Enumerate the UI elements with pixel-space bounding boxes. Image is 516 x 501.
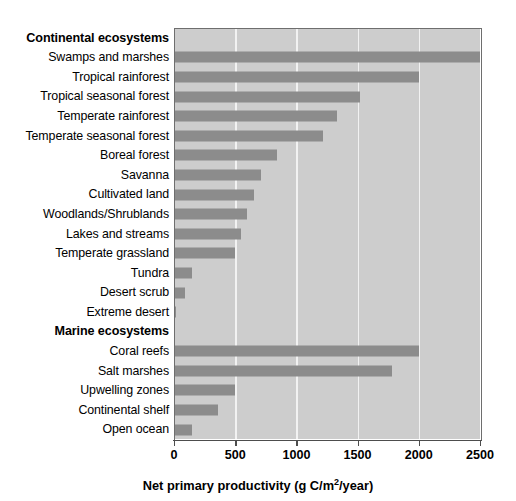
gridline <box>296 224 298 244</box>
chart-root: Continental ecosystemsSwamps and marshes… <box>0 0 516 501</box>
gridline <box>419 126 421 146</box>
bar-track <box>174 28 480 48</box>
category-label: Open ocean <box>0 420 174 440</box>
gridline <box>358 322 360 342</box>
chart-row: Coral reefs <box>0 342 516 362</box>
chart-row: Extreme desert <box>0 302 516 322</box>
bar-track <box>174 361 480 381</box>
bar-track <box>174 106 480 126</box>
category-label: Coral reefs <box>0 342 174 362</box>
gridline <box>419 381 421 401</box>
gridline <box>296 322 298 342</box>
gridline <box>419 185 421 205</box>
gridline <box>296 381 298 401</box>
chart-row: Tundra <box>0 263 516 283</box>
chart-row: Upwelling zones <box>0 381 516 401</box>
chart-row: Open ocean <box>0 420 516 440</box>
gridline <box>419 204 421 224</box>
chart-row: Woodlands/Shrublands <box>0 204 516 224</box>
gridline <box>358 302 360 322</box>
x-axis-tick-label: 500 <box>225 448 246 462</box>
chart-row: Salt marshes <box>0 361 516 381</box>
chart-row: Lakes and streams <box>0 224 516 244</box>
gridline <box>358 106 360 126</box>
gridline <box>235 283 237 303</box>
bar <box>174 71 419 82</box>
gridline <box>419 283 421 303</box>
gridline <box>419 87 421 107</box>
category-label: Continental shelf <box>0 400 174 420</box>
gridline <box>235 322 237 342</box>
chart-row: Temperate grassland <box>0 244 516 264</box>
category-label: Woodlands/Shrublands <box>0 204 174 224</box>
bar-track <box>174 224 480 244</box>
x-axis-tick-label: 2000 <box>405 448 433 462</box>
gridline <box>358 244 360 264</box>
bar-track <box>174 381 480 401</box>
gridline <box>296 263 298 283</box>
gridline <box>358 263 360 283</box>
category-label: Upwelling zones <box>0 381 174 401</box>
bar-track <box>174 87 480 107</box>
bar <box>174 346 419 357</box>
gridline <box>358 165 360 185</box>
x-axis-tick-label: 0 <box>170 448 177 462</box>
gridline <box>296 420 298 440</box>
gridline <box>419 302 421 322</box>
gridline <box>358 204 360 224</box>
gridline <box>419 244 421 264</box>
category-label: Swamps and marshes <box>0 48 174 68</box>
gridline <box>419 322 421 342</box>
gridline <box>296 146 298 166</box>
bar-track <box>174 400 480 420</box>
gridline <box>419 263 421 283</box>
gridline <box>235 420 237 440</box>
bar <box>174 424 192 435</box>
gridline <box>358 224 360 244</box>
bar-track <box>174 420 480 440</box>
gridline <box>296 165 298 185</box>
category-label: Savanna <box>0 165 174 185</box>
bar-track <box>174 302 480 322</box>
x-axis-tick-label: 1500 <box>344 448 372 462</box>
gridline <box>419 224 421 244</box>
bar-track <box>174 322 480 342</box>
gridline <box>419 106 421 126</box>
x-axis-title-suffix: /year) <box>339 478 373 493</box>
bar-track <box>174 185 480 205</box>
gridline <box>419 165 421 185</box>
gridline <box>296 28 298 48</box>
gridline <box>296 400 298 420</box>
bar-track <box>174 204 480 224</box>
x-axis-tick <box>480 441 481 446</box>
group-header-label: Continental ecosystems <box>0 28 174 48</box>
chart-row: Savanna <box>0 165 516 185</box>
gridline <box>235 244 237 264</box>
gridline <box>296 302 298 322</box>
bar <box>174 307 176 318</box>
chart-row: Temperate seasonal forest <box>0 126 516 146</box>
bar <box>174 91 360 102</box>
gridline <box>235 263 237 283</box>
x-axis-tick <box>419 441 420 446</box>
bar <box>174 130 323 141</box>
gridline <box>419 342 421 362</box>
category-label: Temperate grassland <box>0 244 174 264</box>
gridline <box>419 146 421 166</box>
bar <box>174 111 337 122</box>
chart-rows-area: Continental ecosystemsSwamps and marshes… <box>0 28 516 439</box>
x-axis-tick <box>235 441 236 446</box>
group-header-label: Marine ecosystems <box>0 322 174 342</box>
bar <box>174 52 480 63</box>
gridline <box>296 283 298 303</box>
gridline <box>419 420 421 440</box>
gridline <box>235 381 237 401</box>
category-label: Temperate seasonal forest <box>0 126 174 146</box>
gridline <box>419 361 421 381</box>
chart-row: Continental shelf <box>0 400 516 420</box>
gridline <box>235 28 237 48</box>
chart-row: Tropical rainforest <box>0 67 516 87</box>
gridline <box>358 185 360 205</box>
gridline <box>419 28 421 48</box>
chart-row: Temperate rainforest <box>0 106 516 126</box>
